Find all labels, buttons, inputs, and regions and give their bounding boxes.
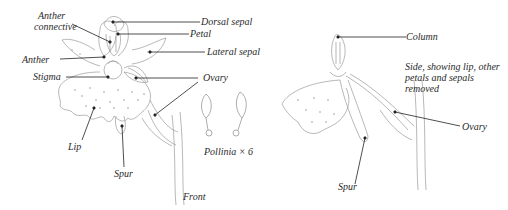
label-anther-connective-line1: Anther <box>38 10 65 21</box>
label-ovary-side: Ovary <box>462 121 487 132</box>
caption-pollinia: Pollinia × 6 <box>204 146 253 157</box>
caption-side-line3: removed <box>405 83 439 94</box>
side-flower-drawing <box>282 35 426 191</box>
label-spur-front: Spur <box>114 168 133 179</box>
label-anther: Anther <box>22 54 49 65</box>
label-dorsal-sepal: Dorsal sepal <box>201 16 252 27</box>
label-lateral-sepal: Lateral sepal <box>207 46 260 57</box>
label-column: Column <box>406 31 438 42</box>
label-petal: Petal <box>190 28 211 39</box>
label-ovary-front: Ovary <box>203 72 228 83</box>
label-spur-side: Spur <box>338 181 357 192</box>
label-anther-connective-line2: connective <box>34 21 77 32</box>
pollinia-drawing <box>202 92 247 136</box>
caption-side-line1: Side, showing lip, other <box>405 61 500 72</box>
label-lip: Lip <box>68 141 81 152</box>
side-lip-stipple <box>297 97 335 123</box>
caption-side-line2: petals and sepals <box>405 72 474 83</box>
caption-front: Front <box>183 191 205 202</box>
orchid-diagram: Anther connective Dorsal sepal Petal Lat… <box>0 0 508 210</box>
label-stigma: Stigma <box>33 71 61 82</box>
